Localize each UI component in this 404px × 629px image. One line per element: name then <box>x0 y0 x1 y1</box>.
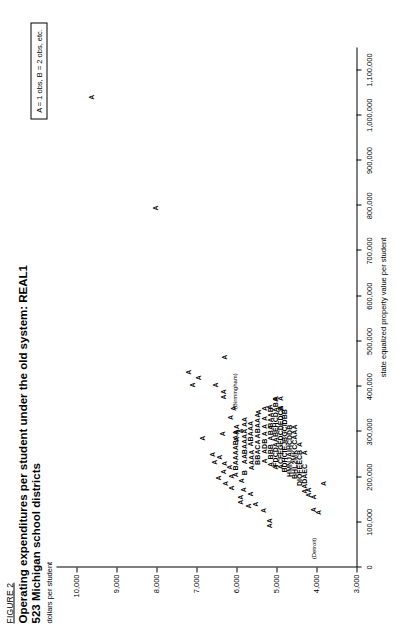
figure-title: Operating expenditures per student under… <box>16 203 41 623</box>
y-tick <box>156 567 157 572</box>
y-tick-label: 4,000 <box>312 574 321 593</box>
data-point: A <box>221 354 228 359</box>
x-tick-label: 600,000 <box>364 282 373 309</box>
data-point: A <box>237 428 244 433</box>
data-point: A <box>208 451 215 456</box>
data-point: A <box>194 375 201 380</box>
data-point: A <box>88 94 95 99</box>
data-point: A <box>245 503 252 508</box>
y-tick <box>276 567 277 572</box>
y-tick <box>196 567 197 572</box>
data-point: A <box>246 491 253 496</box>
y-tick-label: 9,000 <box>112 574 121 593</box>
x-tick <box>356 476 361 477</box>
data-point: A <box>184 369 191 374</box>
x-tick <box>356 159 361 160</box>
x-tick <box>356 114 361 115</box>
x-tick-label: 100,000 <box>364 508 373 535</box>
data-point: A <box>152 205 159 210</box>
x-tick-label: 300,000 <box>364 418 373 445</box>
y-tick-label: 6,000 <box>232 574 241 593</box>
data-point: A <box>227 485 234 490</box>
data-point: A <box>189 382 196 387</box>
x-tick-label: 500,000 <box>364 327 373 354</box>
x-tick <box>356 204 361 205</box>
x-tick-label: 800,000 <box>364 192 373 219</box>
x-axis-line <box>356 47 357 567</box>
data-point: A <box>219 431 226 436</box>
data-point: A <box>199 435 206 440</box>
data-point: A <box>319 480 326 485</box>
data-point: A <box>252 501 259 506</box>
y-tick-label: 5,000 <box>272 574 281 593</box>
data-point: B <box>241 469 248 474</box>
figure-title-line2: 523 Michigan school districts <box>29 203 42 623</box>
data-point: BBA <box>253 449 260 464</box>
data-point: A <box>211 382 218 387</box>
legend-box: A = 1 obs, B = 2 obs, etc. <box>30 22 47 120</box>
y-tick-label: 8,000 <box>152 574 161 593</box>
data-point: A <box>300 450 307 455</box>
data-point: A <box>215 454 222 459</box>
y-tick <box>76 567 77 572</box>
data-point: A <box>310 494 317 499</box>
y-tick-label: 7,000 <box>192 574 201 593</box>
data-point: A <box>271 395 278 400</box>
x-tick-label: 700,000 <box>364 237 373 264</box>
point-annotation: (Birmingham) <box>231 373 238 409</box>
data-point: A <box>227 414 234 419</box>
x-axis-title: state equalized property value per stude… <box>378 237 387 377</box>
y-tick <box>356 567 357 572</box>
y-tick <box>116 567 117 572</box>
x-tick <box>356 385 361 386</box>
data-point: A <box>259 507 266 512</box>
scatter-plot-area: 3,0004,0005,0006,0007,0008,0009,00010,00… <box>56 47 356 567</box>
figure-title-line1: Operating expenditures per student under… <box>16 203 29 623</box>
x-tick-label: 1,000,000 <box>364 98 373 131</box>
data-point: CA <box>253 439 260 449</box>
data-point: A <box>315 509 322 514</box>
x-tick <box>356 340 361 341</box>
x-tick <box>356 249 361 250</box>
x-tick <box>356 430 361 431</box>
x-tick <box>356 295 361 296</box>
y-tick-label: 3,000 <box>352 574 361 593</box>
x-tick-label: 200,000 <box>364 463 373 490</box>
data-point: A <box>237 478 244 483</box>
x-tick-label: 1,100,000 <box>364 53 373 86</box>
x-tick <box>356 566 361 567</box>
x-tick-label: 900,000 <box>364 146 373 173</box>
x-tick <box>356 69 361 70</box>
data-point: A <box>214 475 221 480</box>
x-tick-label: 0 <box>364 565 373 569</box>
figure-canvas: FIGURE 2 Operating expenditures per stud… <box>0 0 404 629</box>
figure-number: FIGURE 2 <box>4 582 14 623</box>
point-annotation: (Detroit) <box>310 537 317 559</box>
y-axis-caption: dollars per student <box>44 561 53 623</box>
y-tick <box>236 567 237 572</box>
y-axis-line <box>56 566 356 567</box>
data-point: A <box>210 459 217 464</box>
data-point: AA <box>220 389 227 399</box>
x-tick-label: 400,000 <box>364 373 373 400</box>
data-point: AA <box>265 518 272 528</box>
y-tick <box>316 567 317 572</box>
data-point: AA <box>237 494 244 504</box>
data-point: A BAAAABAA <box>232 429 239 476</box>
y-tick-label: 10,000 <box>72 574 81 597</box>
data-point: A <box>295 441 302 446</box>
data-point: A <box>265 404 272 409</box>
rotated-page-wrapper: FIGURE 2 Operating expenditures per stud… <box>0 0 404 629</box>
x-tick <box>356 521 361 522</box>
